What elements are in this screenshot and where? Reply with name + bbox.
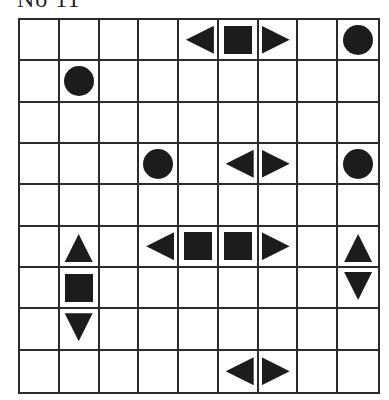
grid-cell-r6-c4[interactable] <box>179 268 219 309</box>
grid-cell-r3-c5[interactable] <box>219 144 259 185</box>
grid-cell-r1-c7[interactable] <box>298 61 338 102</box>
grid-cell-r8-c6[interactable] <box>259 351 299 392</box>
triangle-right-icon <box>262 26 290 54</box>
grid-cell-r4-c1[interactable] <box>60 185 100 226</box>
triangle-right-icon <box>262 150 290 178</box>
grid-cell-r4-c2[interactable] <box>100 185 140 226</box>
square-ship-segment-icon <box>65 274 93 302</box>
grid-cell-r2-c8[interactable] <box>338 103 378 144</box>
grid-cell-r2-c1[interactable] <box>60 103 100 144</box>
grid-cell-r7-c6[interactable] <box>259 309 299 350</box>
grid-cell-r7-c0[interactable] <box>20 309 60 350</box>
puzzle-title: No 11 <box>17 0 80 11</box>
square-ship-segment-icon <box>224 26 252 54</box>
grid-cell-r1-c0[interactable] <box>20 61 60 102</box>
grid-cell-r8-c7[interactable] <box>298 351 338 392</box>
circle-ship-icon <box>343 149 373 179</box>
grid-cell-r0-c8[interactable] <box>338 20 378 61</box>
grid-cell-r2-c0[interactable] <box>20 103 60 144</box>
grid-cell-r7-c7[interactable] <box>298 309 338 350</box>
grid-cell-r7-c1[interactable] <box>60 309 100 350</box>
triangle-up-icon <box>344 234 372 262</box>
grid-cell-r2-c4[interactable] <box>179 103 219 144</box>
grid-cell-r4-c6[interactable] <box>259 185 299 226</box>
grid-cell-r8-c2[interactable] <box>100 351 140 392</box>
grid-cell-r1-c6[interactable] <box>259 61 299 102</box>
grid-cell-r5-c5[interactable] <box>219 227 259 268</box>
grid-cell-r4-c0[interactable] <box>20 185 60 226</box>
circle-ship-icon <box>343 25 373 55</box>
circle-ship-icon <box>64 66 94 96</box>
grid-cell-r2-c2[interactable] <box>100 103 140 144</box>
grid-cell-r5-c4[interactable] <box>179 227 219 268</box>
triangle-left-icon <box>226 357 254 385</box>
grid-cell-r5-c3[interactable] <box>139 227 179 268</box>
grid-cell-r4-c3[interactable] <box>139 185 179 226</box>
grid-cell-r7-c8[interactable] <box>338 309 378 350</box>
grid-cell-r3-c2[interactable] <box>100 144 140 185</box>
grid-cell-r6-c8[interactable] <box>338 268 378 309</box>
grid-cell-r0-c0[interactable] <box>20 20 60 61</box>
grid-cell-r1-c5[interactable] <box>219 61 259 102</box>
grid-cell-r0-c4[interactable] <box>179 20 219 61</box>
grid-cell-r7-c3[interactable] <box>139 309 179 350</box>
grid-cell-r2-c5[interactable] <box>219 103 259 144</box>
grid-cell-r5-c1[interactable] <box>60 227 100 268</box>
grid-cell-r3-c8[interactable] <box>338 144 378 185</box>
grid-cell-r6-c2[interactable] <box>100 268 140 309</box>
grid-cell-r2-c6[interactable] <box>259 103 299 144</box>
grid-cell-r8-c5[interactable] <box>219 351 259 392</box>
triangle-up-icon <box>65 234 93 262</box>
puzzle-grid <box>18 18 380 394</box>
grid-cell-r5-c8[interactable] <box>338 227 378 268</box>
triangle-left-icon <box>146 232 174 260</box>
grid-cell-r0-c2[interactable] <box>100 20 140 61</box>
square-ship-segment-icon <box>184 232 212 260</box>
grid-cell-r8-c4[interactable] <box>179 351 219 392</box>
grid-cell-r7-c2[interactable] <box>100 309 140 350</box>
grid-cell-r8-c8[interactable] <box>338 351 378 392</box>
grid-cell-r0-c3[interactable] <box>139 20 179 61</box>
grid-cell-r6-c3[interactable] <box>139 268 179 309</box>
grid-cell-r7-c4[interactable] <box>179 309 219 350</box>
triangle-right-icon <box>262 357 290 385</box>
grid-cell-r0-c1[interactable] <box>60 20 100 61</box>
grid-cell-r3-c6[interactable] <box>259 144 299 185</box>
grid-cell-r8-c1[interactable] <box>60 351 100 392</box>
grid-cell-r1-c1[interactable] <box>60 61 100 102</box>
grid-cell-r8-c0[interactable] <box>20 351 60 392</box>
grid-cell-r5-c7[interactable] <box>298 227 338 268</box>
grid-cell-r2-c7[interactable] <box>298 103 338 144</box>
grid-cell-r1-c2[interactable] <box>100 61 140 102</box>
grid-cell-r1-c4[interactable] <box>179 61 219 102</box>
grid-cell-r3-c7[interactable] <box>298 144 338 185</box>
grid-cell-r1-c8[interactable] <box>338 61 378 102</box>
grid-cell-r6-c0[interactable] <box>20 268 60 309</box>
grid-cell-r6-c6[interactable] <box>259 268 299 309</box>
grid-cell-r8-c3[interactable] <box>139 351 179 392</box>
grid-cell-r4-c5[interactable] <box>219 185 259 226</box>
grid-cell-r7-c5[interactable] <box>219 309 259 350</box>
grid-cell-r3-c0[interactable] <box>20 144 60 185</box>
grid-cell-r6-c5[interactable] <box>219 268 259 309</box>
grid-cell-r3-c3[interactable] <box>139 144 179 185</box>
grid-cell-r6-c1[interactable] <box>60 268 100 309</box>
grid-cell-r4-c4[interactable] <box>179 185 219 226</box>
grid-cell-r1-c3[interactable] <box>139 61 179 102</box>
grid-cell-r0-c5[interactable] <box>219 20 259 61</box>
circle-ship-icon <box>143 149 173 179</box>
grid-cell-r5-c2[interactable] <box>100 227 140 268</box>
triangle-right-icon <box>262 232 290 260</box>
grid-cell-r0-c7[interactable] <box>298 20 338 61</box>
grid-cell-r5-c6[interactable] <box>259 227 299 268</box>
grid-cell-r3-c4[interactable] <box>179 144 219 185</box>
grid-cell-r2-c3[interactable] <box>139 103 179 144</box>
grid-cell-r6-c7[interactable] <box>298 268 338 309</box>
grid-cell-r0-c6[interactable] <box>259 20 299 61</box>
grid-cell-r3-c1[interactable] <box>60 144 100 185</box>
triangle-left-icon <box>226 150 254 178</box>
grid-cell-r4-c8[interactable] <box>338 185 378 226</box>
grid-cell-r4-c7[interactable] <box>298 185 338 226</box>
grid-cell-r5-c0[interactable] <box>20 227 60 268</box>
triangle-left-icon <box>186 26 214 54</box>
